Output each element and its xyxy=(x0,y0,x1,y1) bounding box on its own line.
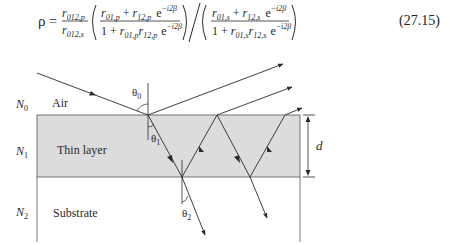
n1-label: N1 xyxy=(15,144,28,160)
reflected-ray-1 xyxy=(148,64,283,115)
thin-film-diagram: d θ0 θ1 θ2 N0 N1 N2 Air Thin layer Subst… xyxy=(0,0,450,245)
reflected-ray-3 xyxy=(285,108,302,115)
thickness-label: d xyxy=(316,138,323,153)
n0-label: N0 xyxy=(15,97,28,113)
theta0-label: θ0 xyxy=(132,86,141,101)
transmitted-ray-1 xyxy=(182,177,205,235)
air-label: Air xyxy=(52,96,68,110)
n2-label: N2 xyxy=(15,205,28,221)
transmitted-ray-2 xyxy=(250,177,267,218)
thickness-dimension xyxy=(303,115,315,177)
thin-layer-label: Thin layer xyxy=(57,143,107,157)
theta0-arc xyxy=(137,104,148,111)
substrate-label: Substrate xyxy=(53,206,98,220)
reflected-ray-2 xyxy=(217,87,292,115)
theta2-arc xyxy=(182,196,188,202)
theta2-label: θ2 xyxy=(182,207,191,222)
